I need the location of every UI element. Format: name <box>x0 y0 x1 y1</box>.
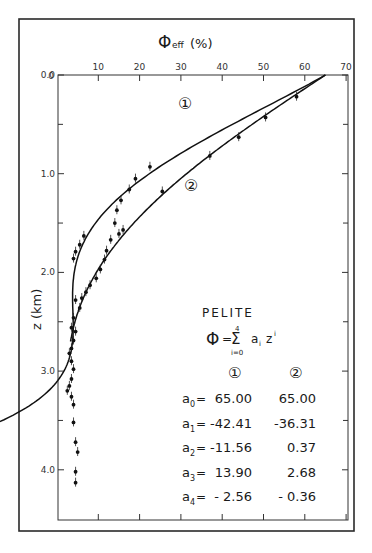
fit-curve-1 <box>0 75 325 445</box>
formula-a: a <box>251 332 258 346</box>
data-point <box>148 162 152 171</box>
data-point <box>113 218 117 227</box>
data-point <box>72 254 76 263</box>
data-point <box>67 381 71 390</box>
x-tick-label: 10 <box>93 62 105 72</box>
coefficient-value-2: -36.31 <box>274 416 316 431</box>
x-tick-label: 30 <box>175 62 187 72</box>
data-point <box>134 174 138 183</box>
formula-upper-limit: 4 <box>235 325 240 333</box>
curve-1-label: ① <box>178 94 192 113</box>
data-point <box>70 392 74 401</box>
x-axis-title-unit: (%) <box>190 36 213 51</box>
inset-title: PELITE <box>202 306 254 320</box>
coefficient-value-1: 13.90 <box>215 465 252 480</box>
coefficient-name: a <box>182 440 190 455</box>
data-point <box>74 247 78 256</box>
coefficient-name: a <box>182 416 190 431</box>
data-point <box>70 374 74 383</box>
coefficient-equals: = <box>196 417 206 431</box>
fit-curves <box>0 75 325 445</box>
data-point <box>80 293 84 302</box>
y-tick-label: 1.0 <box>41 169 56 179</box>
formula-a-subscript: i <box>259 340 261 348</box>
column-2-header: ② <box>289 364 302 382</box>
curve-2-label: ② <box>184 176 198 195</box>
coefficient-subscript: 2 <box>190 449 195 458</box>
y-axis-title: z (km) <box>29 289 44 330</box>
formula-phi: Φ <box>206 329 219 349</box>
data-point <box>105 246 109 255</box>
coefficient-name: a <box>182 489 190 504</box>
coefficient-equals: = <box>196 466 206 480</box>
coefficient-value-1: -42.41 <box>210 416 252 431</box>
data-point <box>208 151 212 160</box>
x-axis-title: Φ eff (%) <box>158 32 213 52</box>
data-point <box>127 184 131 193</box>
formula-inset: PELITE Φ = Σ 4 i=0 a i z i ① ② a0=65.006… <box>182 306 316 507</box>
data-point <box>74 437 78 446</box>
coefficient-row: a0=65.0065.00 <box>182 391 316 409</box>
coefficient-value-2: 65.00 <box>279 391 316 406</box>
data-point <box>74 327 78 336</box>
data-point <box>72 400 76 409</box>
coefficient-equals: = <box>196 490 206 504</box>
coefficient-subscript: 0 <box>190 400 195 409</box>
coefficient-value-2: - 0.36 <box>278 489 316 504</box>
coefficient-row: a2=-11.560.37 <box>182 440 316 458</box>
data-point <box>72 364 76 373</box>
coefficient-value-2: 0.37 <box>287 440 316 455</box>
coefficient-subscript: 1 <box>190 425 195 434</box>
x-axis-title-subscript: eff <box>172 40 185 50</box>
coefficient-value-1: -11.56 <box>210 440 252 455</box>
data-point <box>76 447 80 456</box>
data-point <box>109 235 113 244</box>
x-tick-label: 20 <box>134 62 146 72</box>
coefficient-name: a <box>182 465 190 480</box>
y-tick-label: 3.0 <box>41 366 56 376</box>
coefficient-subscript: 4 <box>190 498 195 507</box>
figure-canvas: Φ eff (%) z (km) 1020304050607000.01.02.… <box>0 0 372 553</box>
x-tick-label: 60 <box>299 62 311 72</box>
coefficient-value-2: 2.68 <box>287 465 316 480</box>
y-tick-label: 0.0 <box>41 70 56 80</box>
column-1-header: ① <box>228 364 241 382</box>
data-point <box>74 467 78 476</box>
formula-z: z <box>266 332 272 346</box>
coefficient-row: a1=-42.41-36.31 <box>182 416 316 434</box>
x-tick-label: 70 <box>340 62 352 72</box>
data-point <box>72 417 76 426</box>
coefficient-equals: = <box>196 392 206 406</box>
data-point <box>115 205 119 214</box>
data-point <box>98 264 102 273</box>
data-point <box>74 478 78 487</box>
coefficient-value-1: - 2.56 <box>214 489 252 504</box>
coefficient-equals: = <box>196 441 206 455</box>
y-tick-label: 2.0 <box>41 267 56 277</box>
coefficient-table: a0=65.0065.00a1=-42.41-36.31a2=-11.560.3… <box>182 391 316 507</box>
x-tick-label: 40 <box>216 62 228 72</box>
y-tick-label: 4.0 <box>41 465 56 475</box>
coefficient-value-1: 65.00 <box>215 391 252 406</box>
data-point <box>74 295 78 304</box>
formula-lower-limit: i=0 <box>231 349 243 357</box>
x-tick-label: 50 <box>258 62 270 72</box>
formula-exponent: i <box>274 330 276 338</box>
coefficient-row: a3=13.902.68 <box>182 465 316 483</box>
coefficient-row: a4=- 2.56- 0.36 <box>182 489 316 507</box>
coefficient-name: a <box>182 391 190 406</box>
data-point <box>117 229 121 238</box>
x-axis-title-phi: Φ <box>158 32 171 52</box>
coefficient-subscript: 3 <box>190 474 195 483</box>
